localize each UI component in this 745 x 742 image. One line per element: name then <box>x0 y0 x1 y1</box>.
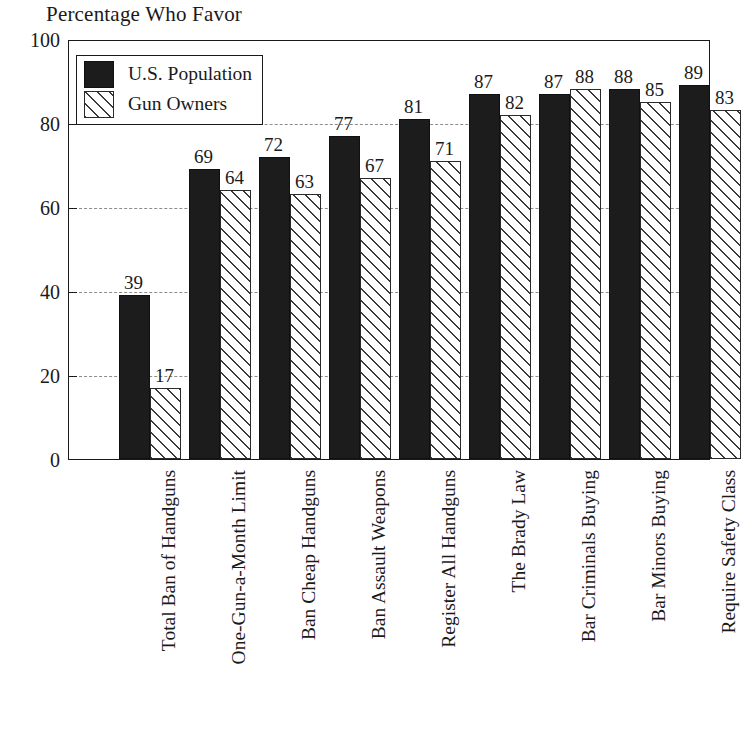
y-tick-label: 40 <box>4 282 60 302</box>
legend-item-us-population: U.S. Population <box>84 60 252 88</box>
bar-us-population <box>469 94 500 459</box>
x-category-label: One-Gun-a-Month Limit <box>229 470 249 664</box>
bar-value-label: 63 <box>283 172 326 191</box>
bar-gun-owners <box>430 161 461 459</box>
y-tick-label: 20 <box>4 366 60 386</box>
y-tick-mark <box>69 292 77 293</box>
bar-gun-owners <box>710 110 741 459</box>
x-category-label: Bar Minors Buying <box>649 470 669 622</box>
bar-value-label: 72 <box>252 135 295 154</box>
y-tick-label: 60 <box>4 198 60 218</box>
bar-value-label: 85 <box>633 80 676 99</box>
y-tick-mark <box>69 208 77 209</box>
x-category-label: Ban Assault Weapons <box>369 470 389 639</box>
bar-value-label: 71 <box>423 139 466 158</box>
chart-legend: U.S. Population Gun Owners <box>76 55 263 125</box>
x-category-label: Ban Cheap Handguns <box>299 470 319 640</box>
legend-label-us-population: U.S. Population <box>128 64 252 84</box>
x-category-label: The Brady Law <box>509 470 529 592</box>
legend-swatch-hatch-icon <box>84 91 114 118</box>
bar-value-label: 81 <box>392 97 435 116</box>
bar-value-label: 39 <box>112 273 155 292</box>
bar-value-label: 87 <box>462 72 505 91</box>
bar-gun-owners <box>220 190 251 459</box>
chart-title: Percentage Who Favor <box>46 2 242 27</box>
x-category-label: Bar Criminals Buying <box>579 470 599 642</box>
bar-value-label: 64 <box>213 168 256 187</box>
bar-gun-owners <box>570 89 601 459</box>
bar-value-label: 83 <box>703 88 745 107</box>
bar-us-population <box>259 157 290 459</box>
bar-value-label: 88 <box>563 67 606 86</box>
bar-us-population <box>609 89 640 459</box>
bar-gun-owners <box>640 102 671 459</box>
bar-value-label: 89 <box>672 63 715 82</box>
bar-value-label: 82 <box>493 93 536 112</box>
bar-value-label: 77 <box>322 114 365 133</box>
legend-swatch-solid-icon <box>84 61 114 88</box>
bar-us-population <box>539 94 570 459</box>
bar-gun-owners <box>500 115 531 459</box>
bar-us-population <box>329 136 360 459</box>
bar-gun-owners <box>360 178 391 459</box>
bar-gun-owners <box>150 388 181 459</box>
bar-us-population <box>189 169 220 459</box>
y-tick-mark <box>69 376 77 377</box>
y-tick-label: 100 <box>4 30 60 50</box>
y-tick-label: 0 <box>4 450 60 470</box>
bar-value-label: 67 <box>353 156 396 175</box>
y-tick-label: 80 <box>4 114 60 134</box>
legend-label-gun-owners: Gun Owners <box>128 94 227 114</box>
x-category-label: Require Safety Class <box>719 470 739 634</box>
bar-us-population <box>679 85 710 459</box>
bar-us-population <box>399 119 430 459</box>
legend-item-gun-owners: Gun Owners <box>84 90 227 118</box>
bar-value-label: 17 <box>143 366 186 385</box>
bar-value-label: 69 <box>182 147 225 166</box>
x-category-label: Total Ban of Handguns <box>159 470 179 651</box>
x-category-label: Register All Handguns <box>439 470 459 648</box>
bar-gun-owners <box>290 194 321 459</box>
